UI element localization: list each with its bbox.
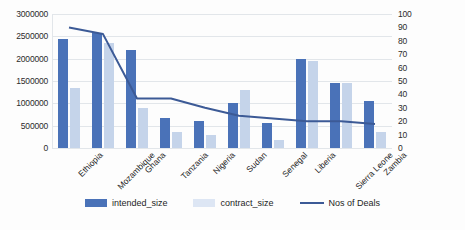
y-tick-label-right: 20 <box>398 116 407 126</box>
combo-chart: 0500000100000015000002000000250000030000… <box>0 0 465 230</box>
y-tick-label-right: 100 <box>398 9 412 19</box>
plot-area <box>52 14 392 148</box>
line-nos-of-deals <box>69 27 375 123</box>
grid-line <box>52 148 392 149</box>
y-tick-label-left: 2000000 <box>16 54 48 64</box>
x-tick-label: Liberia <box>312 150 337 175</box>
y-tick-label-right: 70 <box>398 49 407 59</box>
y-tick-label-left: 2500000 <box>16 31 48 41</box>
legend-label: intended_size <box>112 198 168 208</box>
y-tick-label-right: 80 <box>398 36 407 46</box>
legend-item[interactable]: contract_size <box>193 198 273 208</box>
y-tick-label-right: 50 <box>398 76 407 86</box>
y-tick-label-left: 0 <box>43 143 48 153</box>
chart-legend: intended_sizecontract_sizeNos of Deals <box>0 198 465 208</box>
legend-swatch-line-icon <box>300 202 324 204</box>
y-axis-left: 0500000100000015000002000000250000030000… <box>0 14 48 148</box>
x-tick-label: Tanzania <box>179 150 210 181</box>
y-tick-label-right: 90 <box>398 22 407 32</box>
y-tick-label-right: 60 <box>398 63 407 73</box>
x-tick-label: Ethiopia <box>76 150 105 179</box>
line-series-layer <box>52 14 392 148</box>
y-tick-label-right: 10 <box>398 130 407 140</box>
y-tick-label-left: 500000 <box>21 121 48 131</box>
legend-label: contract_size <box>220 198 273 208</box>
y-axis-right: 0102030405060708090100 <box>398 14 438 148</box>
y-tick-label-right: 40 <box>398 89 407 99</box>
legend-item[interactable]: intended_size <box>85 198 168 208</box>
legend-label: Nos of Deals <box>329 198 381 208</box>
x-tick-label: Senegal <box>280 150 309 179</box>
y-tick-label-left: 3000000 <box>16 9 48 19</box>
x-tick-label: Sudan <box>244 150 268 174</box>
legend-swatch-contract-icon <box>193 199 215 207</box>
x-tick-label: Nigeria <box>211 150 237 176</box>
legend-swatch-intended-icon <box>85 199 107 207</box>
y-tick-label-right: 30 <box>398 103 407 113</box>
legend-item[interactable]: Nos of Deals <box>300 198 381 208</box>
y-tick-label-left: 1000000 <box>16 98 48 108</box>
y-tick-label-left: 1500000 <box>16 76 48 86</box>
x-axis-category-labels: EthiopiaMozambiqueGhanaTanzaniaNigeriaSu… <box>52 150 392 196</box>
